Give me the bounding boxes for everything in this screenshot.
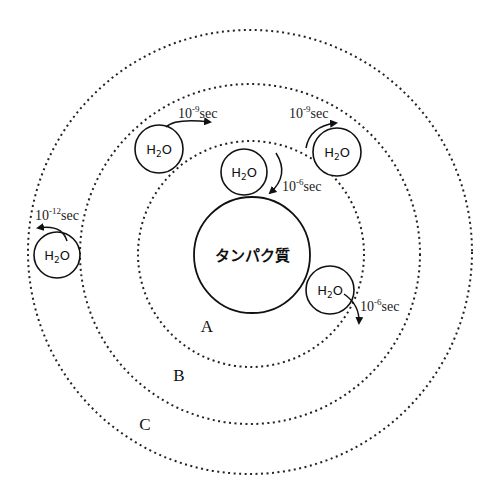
water-molecule-outer-left: H2O 10-12sec (34, 206, 80, 278)
svg-text:10-9sec: 10-9sec (289, 104, 328, 121)
hydration-diagram: タンパク質 A B C H2O 10-6sec H2O 10-6sec H2O … (0, 0, 492, 495)
region-label-b: B (173, 366, 184, 385)
region-label-a: A (201, 317, 214, 336)
rotation-arrow-icon (166, 121, 210, 127)
rotation-arrow-icon (270, 153, 282, 193)
protein-label: タンパク質 (215, 247, 290, 265)
svg-text:10-6sec: 10-6sec (282, 177, 321, 194)
svg-text:10-12sec: 10-12sec (35, 206, 79, 223)
water-molecule-inner-right: H2O 10-6sec (306, 266, 399, 323)
water-molecule-middle-left: H2O 10-9sec (135, 104, 217, 173)
svg-text:10-6sec: 10-6sec (360, 297, 399, 314)
region-label-c: C (139, 415, 150, 434)
svg-text:10-9sec: 10-9sec (178, 104, 217, 121)
water-molecule-middle-right: H2O 10-9sec (289, 104, 361, 176)
